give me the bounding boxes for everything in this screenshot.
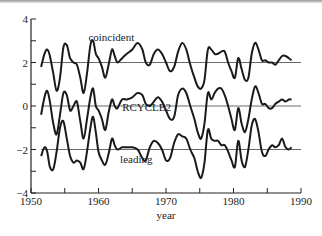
x-tick-label: 1990 [290, 195, 313, 207]
series-label-rcycle2: RCYCLE2 [122, 101, 171, 113]
series-line-coincident [41, 40, 291, 93]
y-tick-label: 2 [23, 57, 29, 69]
series-line-leading [41, 117, 291, 178]
y-tick-label: 0 [23, 100, 29, 112]
line-chart: 4 2 0 −2 −4 1950 1960 1970 1980 1990 yea… [0, 0, 322, 236]
series-label-leading: leading [120, 153, 153, 165]
y-tick-label: −2 [16, 144, 28, 156]
x-axis-title: year [157, 209, 176, 221]
series-label-coincident: coincident [88, 31, 134, 43]
y-tick-label: 4 [23, 13, 29, 25]
x-tick-label: 1960 [88, 195, 111, 207]
x-tick-label: 1980 [223, 195, 246, 207]
chart-labels: 4 2 0 −2 −4 1950 1960 1970 1980 1990 yea… [16, 13, 312, 221]
x-tick-label: 1970 [155, 195, 178, 207]
x-tick-label: 1950 [20, 195, 43, 207]
